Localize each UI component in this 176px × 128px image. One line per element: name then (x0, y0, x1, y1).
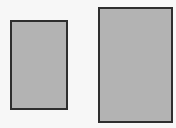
small-rectangle (10, 20, 68, 110)
large-rectangle (98, 7, 173, 123)
